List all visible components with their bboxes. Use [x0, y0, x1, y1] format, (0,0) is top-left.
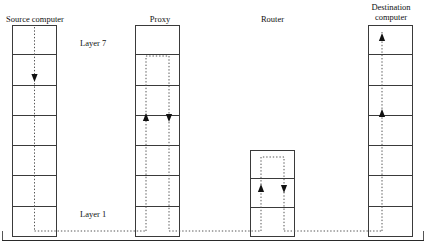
- layer-cell: [135, 25, 180, 55]
- layer-cell: [368, 176, 413, 206]
- layer-cell: [12, 207, 57, 237]
- layer-cell: [368, 55, 413, 85]
- source-computer-stack: [12, 25, 57, 237]
- proxy-stack: [135, 25, 180, 237]
- layer-cell: [368, 207, 413, 237]
- layer-cell: [250, 208, 295, 237]
- layer-cell: [368, 116, 413, 146]
- caption-proxy: Proxy: [140, 14, 180, 24]
- layer-cell: [135, 146, 180, 176]
- layer-cell: [135, 55, 180, 85]
- caption-destination-computer: Destination computer: [358, 2, 424, 22]
- layer-cell: [135, 86, 180, 116]
- layer-cell: [135, 116, 180, 146]
- caption-router: Router: [250, 14, 295, 24]
- layer-cell: [12, 55, 57, 85]
- layer-cell: [135, 207, 180, 237]
- layer-cell: [250, 150, 295, 179]
- layer-cell: [12, 25, 57, 55]
- layer-label-top: Layer 7: [80, 38, 106, 48]
- layer-cell: [368, 86, 413, 116]
- layer-cell: [12, 176, 57, 206]
- network-layer-diagram: Source computer Proxy Router Destination…: [0, 0, 426, 244]
- router-stack: [250, 150, 295, 237]
- layer-cell: [12, 86, 57, 116]
- data-flow-overlay: [0, 0, 426, 244]
- layer-cell: [368, 25, 413, 55]
- layer-cell: [12, 116, 57, 146]
- caption-source-computer: Source computer: [0, 14, 70, 24]
- layer-cell: [135, 176, 180, 206]
- layer-cell: [12, 146, 57, 176]
- layer-cell: [250, 179, 295, 208]
- layer-label-bottom: Layer 1: [80, 209, 106, 219]
- destination-computer-stack: [368, 25, 413, 237]
- layer-cell: [368, 146, 413, 176]
